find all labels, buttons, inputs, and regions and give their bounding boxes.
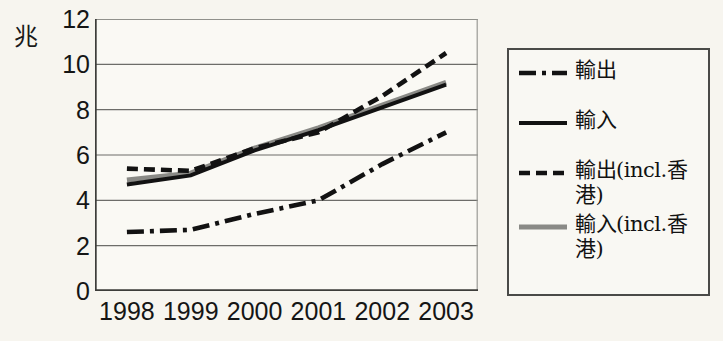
x-tick-label-2003: 2003 [418,299,474,324]
legend-item-0[interactable]: 輸出 [509,58,708,86]
y-tick-label-6: 6 [48,143,90,168]
chart-canvas [95,19,478,291]
legend-swatch-solid-icon [517,214,569,240]
x-tick-label-2001: 2001 [291,299,347,324]
legend-item-1[interactable]: 輸入 [509,108,708,136]
legend-label-2: 輸出(incl.香港) [575,158,702,208]
chart-figure: 兆 024681012 199819992000200120022003 輸出輸… [0,0,723,341]
x-tick-label-1999: 1999 [163,299,219,324]
y-axis-unit-label: 兆 [14,25,38,49]
x-tick-label-2000: 2000 [227,299,283,324]
legend-item-2[interactable]: 輸出(incl.香港) [509,158,708,208]
x-tick-label-1998: 1998 [99,299,155,324]
x-axis-tick-labels: 199819992000200120022003 [95,299,478,339]
y-axis-tick-labels: 024681012 [40,19,90,291]
legend-swatch-dash-dot-icon [517,60,569,86]
legend-swatch-dashed-icon [517,160,569,186]
y-tick-label-4: 4 [48,188,90,213]
legend-label-3: 輸入(incl.香港) [575,212,702,262]
y-tick-label-0: 0 [48,279,90,304]
legend-item-3[interactable]: 輸入(incl.香港) [509,212,708,262]
plot-area [95,19,478,291]
x-tick-label-2002: 2002 [354,299,410,324]
legend-label-0: 輸出 [575,58,616,83]
legend-label-1: 輸入 [575,108,616,133]
chart-legend: 輸出輸入輸出(incl.香港)輸入(incl.香港) [507,48,710,296]
y-tick-label-8: 8 [48,97,90,122]
legend-swatch-solid-icon [517,110,569,136]
y-tick-label-2: 2 [48,233,90,258]
y-tick-label-10: 10 [48,52,90,77]
y-tick-label-12: 12 [48,7,90,32]
